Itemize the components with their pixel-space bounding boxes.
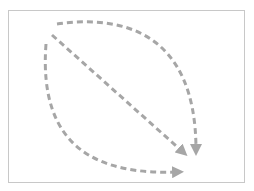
diagonal-arrow (52, 35, 183, 152)
left-arc-arrow (45, 44, 178, 172)
top-arc-arrow (57, 22, 196, 150)
diagram-canvas (0, 0, 254, 191)
